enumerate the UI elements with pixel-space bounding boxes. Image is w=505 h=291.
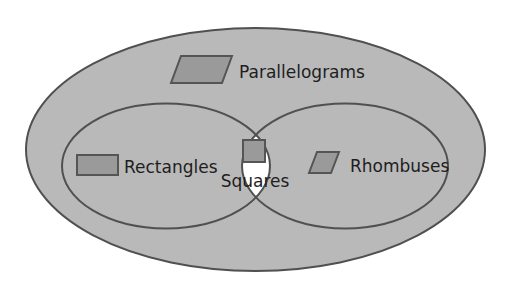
venn-diagram: Parallelograms Rectangles Squares Rhombu… (0, 0, 505, 291)
square-icon (243, 140, 265, 162)
rhombuses-label: Rhombuses (350, 156, 449, 176)
rectangles-label: Rectangles (124, 157, 218, 177)
parallelogram-icon (171, 56, 232, 83)
rectangle-icon (77, 155, 118, 175)
squares-label: Squares (221, 171, 290, 191)
parallelograms-label: Parallelograms (239, 62, 365, 82)
